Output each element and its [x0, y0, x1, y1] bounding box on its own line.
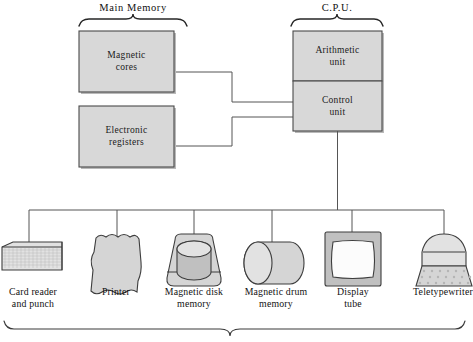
- magnetic-cores-label-line2: cores: [116, 62, 138, 72]
- peripherals-brace: [4, 321, 465, 336]
- magnetic-cores-box[interactable]: Magnetic cores: [79, 31, 176, 94]
- magnetic-disk-memory-device[interactable]: Magnetic disk memory: [165, 234, 223, 309]
- computer-architecture-diagram: Main Memory C.P.U. Magnetic cores Electr…: [0, 0, 473, 342]
- magnetic-disk-label-line2: memory: [177, 298, 211, 309]
- card-reader-label-line1: Card reader: [9, 286, 58, 297]
- drum-end-cap: [244, 242, 272, 284]
- magnetic-drum-memory-device[interactable]: Magnetic drum memory: [244, 242, 308, 309]
- card-reader-and-punch-device[interactable]: Card reader and punch: [2, 242, 62, 309]
- display-tube-device[interactable]: Display tube: [325, 232, 381, 309]
- cpu-label: C.P.U.: [322, 2, 353, 13]
- printer-device[interactable]: Printer: [91, 235, 141, 298]
- display-tube-label-line2: tube: [344, 298, 362, 309]
- architecture-svg-canvas: Main Memory C.P.U. Magnetic cores Electr…: [0, 0, 473, 342]
- cpu-group-header: C.P.U.: [291, 2, 383, 26]
- magnetic-drum-label-line1: Magnetic drum: [245, 286, 308, 297]
- arithmetic-unit-box[interactable]: Arithmetic unit: [293, 31, 384, 83]
- cpu-brace: [291, 14, 383, 26]
- teletypewriter-device[interactable]: Teletypewriter: [413, 234, 473, 297]
- electronic-registers-label-line2: registers: [109, 137, 144, 147]
- electronic-registers-box[interactable]: Electronic registers: [79, 106, 176, 169]
- magnetic-disk-label-line1: Magnetic disk: [165, 286, 223, 297]
- arithmetic-unit-label-line2: unit: [330, 57, 346, 67]
- main-memory-group-header: Main Memory: [79, 2, 187, 26]
- magnetic-drum-label-line2: memory: [259, 298, 293, 309]
- main-memory-brace: [79, 14, 187, 26]
- control-unit-label-line2: unit: [330, 107, 346, 117]
- teletypewriter-label-line1: Teletypewriter: [413, 286, 473, 297]
- magnetic-cores-label-line1: Magnetic: [107, 50, 145, 60]
- electronic-registers-label-line1: Electronic: [105, 125, 147, 135]
- teletypewriter-icon: [422, 234, 466, 266]
- control-unit-box-fill: [293, 81, 382, 131]
- disk-pack-top: [177, 241, 211, 257]
- control-unit-box[interactable]: Control unit: [293, 81, 384, 133]
- printer-label-line1: Printer: [102, 286, 131, 297]
- registers-to-control-link: [176, 117, 293, 146]
- cores-to-control-link: [176, 72, 293, 102]
- card-reader-label-line2: and punch: [12, 298, 54, 309]
- main-memory-label: Main Memory: [99, 2, 167, 13]
- arithmetic-unit-box-fill: [293, 31, 382, 81]
- crt-screen: [332, 241, 375, 279]
- memory-cpu-connections: [176, 72, 293, 146]
- control-unit-label-line1: Control: [322, 95, 353, 105]
- display-tube-label-line1: Display: [337, 286, 369, 297]
- arithmetic-unit-label-line1: Arithmetic: [315, 45, 359, 55]
